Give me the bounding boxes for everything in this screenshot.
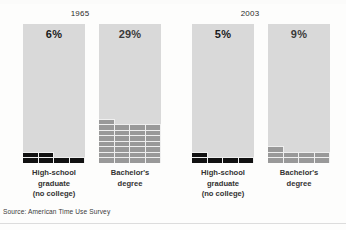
waffle-cell-filled xyxy=(315,157,331,163)
waffle-row xyxy=(192,157,254,163)
bottom-divider xyxy=(0,223,346,224)
waffle-row xyxy=(268,157,330,163)
category-line: Bachelor's xyxy=(256,168,342,179)
category-line: graduate xyxy=(11,179,97,190)
waffle-cell-filled xyxy=(54,157,70,163)
category-line: (no college) xyxy=(11,189,97,200)
category-line: degree xyxy=(87,179,173,190)
waffle-chart-bachelor-2003 xyxy=(268,24,330,163)
category-line: High-school xyxy=(11,168,97,179)
value-label-bachelor-2003: 9% xyxy=(268,28,330,40)
waffle-chart-highschool-2003 xyxy=(192,24,254,163)
value-label-highschool-2003: 5% xyxy=(192,28,254,40)
bar-group-bachelor-1965: 29% xyxy=(99,24,161,163)
category-label-highschool-1965: High-school graduate (no college) xyxy=(11,168,97,200)
waffle-cell-filled xyxy=(146,157,162,163)
category-line: High-school xyxy=(180,168,266,179)
category-label-bachelor-2003: Bachelor's degree xyxy=(256,168,342,189)
waffle-cell-filled xyxy=(192,157,208,163)
waffle-cell-filled xyxy=(239,157,255,163)
waffle-chart-bachelor-1965 xyxy=(99,24,161,163)
waffle-cell-filled xyxy=(208,157,224,163)
panel-year-2003: 2003 xyxy=(228,9,272,18)
waffle-cell-filled xyxy=(299,157,315,163)
value-label-bachelor-1965: 29% xyxy=(99,28,161,40)
category-line: degree xyxy=(256,179,342,190)
waffle-cell-filled xyxy=(39,157,55,163)
waffle-row xyxy=(23,157,85,163)
waffle-cell-filled xyxy=(115,157,131,163)
value-label-highschool-1965: 6% xyxy=(23,28,85,40)
waffle-cell-filled xyxy=(70,157,86,163)
figure-canvas: 1965 2003 6% High-school graduate (no co… xyxy=(0,0,346,230)
waffle-cell-filled xyxy=(130,157,146,163)
category-line: (no college) xyxy=(180,189,266,200)
top-margin xyxy=(0,0,346,4)
waffle-cell-filled xyxy=(223,157,239,163)
category-label-highschool-2003: High-school graduate (no college) xyxy=(180,168,266,200)
category-label-bachelor-1965: Bachelor's degree xyxy=(87,168,173,189)
waffle-row xyxy=(99,157,161,163)
panel-year-1965: 1965 xyxy=(58,9,102,18)
waffle-cell-filled xyxy=(284,157,300,163)
waffle-cell-filled xyxy=(268,157,284,163)
category-line: graduate xyxy=(180,179,266,190)
category-line: Bachelor's xyxy=(87,168,173,179)
bar-group-bachelor-2003: 9% xyxy=(268,24,330,163)
waffle-cell-filled xyxy=(99,157,115,163)
bar-group-highschool-1965: 6% xyxy=(23,24,85,163)
waffle-cell-filled xyxy=(23,157,39,163)
bar-group-highschool-2003: 5% xyxy=(192,24,254,163)
waffle-chart-highschool-1965 xyxy=(23,24,85,163)
source-note: Source: American Time Use Survey xyxy=(3,208,110,215)
